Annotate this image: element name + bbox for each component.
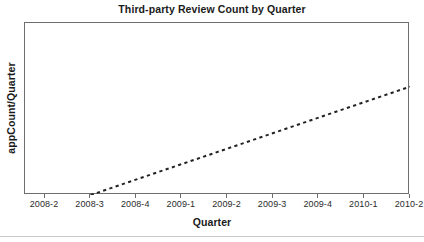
x-axis-tick-mark [89, 194, 90, 198]
x-axis-tick-label: 2008-4 [121, 199, 150, 209]
y-axis-title-container: appCount/Quarter [1, 22, 21, 194]
chart-title: Third-party Review Count by Quarter [0, 3, 424, 16]
x-axis-tick-mark [363, 194, 364, 198]
chart-figure: Third-party Review Count by Quarter appC… [0, 0, 424, 242]
x-axis: 2008-22008-32008-42009-12009-22009-32009… [24, 194, 409, 216]
x-axis-tick-mark [272, 194, 273, 198]
x-axis-tick-label: 2008-3 [75, 199, 104, 209]
x-axis-tick-label: 2009-4 [303, 199, 332, 209]
y-axis-title: appCount/Quarter [5, 62, 17, 153]
x-axis-tick-mark [226, 194, 227, 198]
page-bottom-rule [0, 236, 424, 237]
x-axis-title: Quarter [0, 216, 424, 228]
data-series-line [91, 87, 410, 195]
x-axis-tick-label: 2008-2 [30, 199, 59, 209]
plot-canvas [25, 23, 410, 195]
x-axis-tick-mark [44, 194, 45, 198]
plot-area [24, 22, 409, 194]
x-axis-tick-label: 2010-1 [349, 199, 378, 209]
x-axis-tick-label: 2009-1 [167, 199, 196, 209]
x-axis-tick-label: 2009-3 [258, 199, 287, 209]
data-series-group [91, 87, 410, 195]
x-axis-tick-label: 2010-2 [395, 199, 424, 209]
x-axis-tick-mark [409, 194, 410, 198]
x-axis-tick-mark [135, 194, 136, 198]
x-axis-tick-label: 2009-2 [212, 199, 241, 209]
x-axis-tick-mark [317, 194, 318, 198]
x-axis-tick-mark [180, 194, 181, 198]
